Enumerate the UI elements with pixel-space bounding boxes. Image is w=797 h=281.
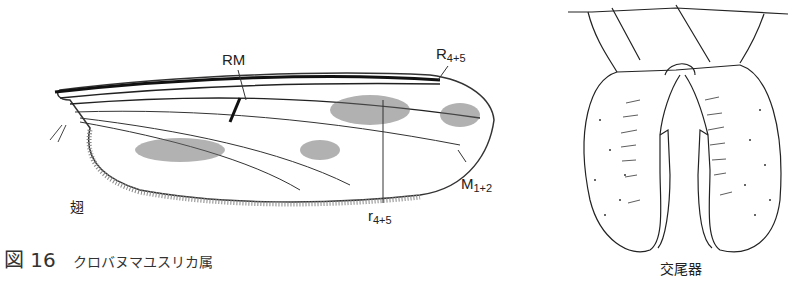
- figure-caption: 図 16 クロバヌマユスリカ属: [4, 244, 213, 273]
- label-m12-main: M: [461, 175, 474, 192]
- label-r45-vein: R4+5: [436, 46, 466, 64]
- label-genitalia: 交尾器: [660, 262, 702, 276]
- label-r45-cell-sub: 4+5: [373, 214, 392, 226]
- label-rm: RM: [222, 52, 245, 67]
- label-r45-main: R: [436, 45, 447, 62]
- label-r45-sub: 4+5: [447, 52, 466, 64]
- label-m12-sub: 1+2: [474, 182, 493, 194]
- label-wing: 翅: [70, 200, 84, 214]
- figure-number: 図 16: [4, 248, 56, 272]
- wing-drawing: [0, 0, 797, 281]
- figure-title: クロバヌマユスリカ属: [73, 254, 213, 270]
- label-m12: M1+2: [461, 176, 492, 194]
- label-r45-cell: r4+5: [368, 208, 392, 226]
